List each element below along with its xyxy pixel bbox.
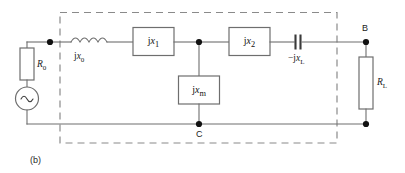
junction-dot-source-top bbox=[47, 39, 53, 45]
label-jx1: jx1 bbox=[133, 36, 174, 49]
figure-caption: (b) bbox=[30, 155, 41, 165]
component-resistor-r0 bbox=[20, 48, 34, 80]
label-minus-jxl-prefix: −j bbox=[288, 53, 296, 63]
node-label-b: B bbox=[362, 24, 368, 33]
junction-dot-load-bottom bbox=[363, 121, 369, 127]
figure-canvas: R0 jx0 jx1 jxm jx2 −jxL RL B C (b) bbox=[0, 0, 405, 173]
junction-dot-shunt-top bbox=[196, 39, 202, 45]
label-jx0-sub: 0 bbox=[81, 56, 85, 64]
label-jx2: jx2 bbox=[229, 36, 270, 49]
label-jxm: jxm bbox=[179, 85, 220, 98]
label-minus-jxl-sub: L bbox=[300, 58, 304, 66]
label-r0-sub: 0 bbox=[43, 64, 47, 72]
label-rl: RL bbox=[377, 78, 387, 90]
label-jx1-sub: 1 bbox=[155, 40, 159, 49]
label-rl-sub: L bbox=[383, 82, 387, 90]
inductor-coil-jx0 bbox=[71, 38, 107, 42]
label-jx2-sub: 2 bbox=[251, 40, 255, 49]
node-label-c: C bbox=[196, 130, 203, 139]
label-jxm-sub: m bbox=[199, 89, 205, 98]
label-jx0: jx0 bbox=[74, 52, 84, 64]
junction-dot-node-c bbox=[196, 121, 202, 127]
label-minus-jxl: −jxL bbox=[288, 54, 305, 66]
component-resistor-rl bbox=[359, 57, 373, 109]
junction-dot-node-b bbox=[363, 39, 369, 45]
label-r0: R0 bbox=[37, 60, 46, 72]
